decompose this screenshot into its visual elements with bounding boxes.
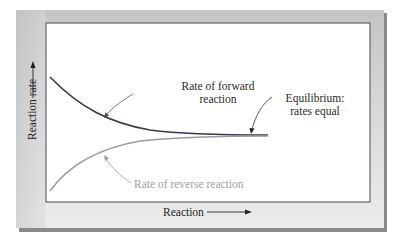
forward-label-line2: reaction [199,93,236,105]
forward-label-line1: Rate of forward [182,80,255,92]
reverse-label: Rate of reverse reaction [134,178,244,190]
y-axis-label: Reaction rate [26,79,38,140]
equilibrium-label-line2: rates equal [290,105,340,118]
x-axis-label: Reaction [163,206,204,218]
reaction-rate-diagram: Rate of forward reaction Equilibrium: ra… [0,0,403,242]
equilibrium-label-line1: Equilibrium: [286,92,345,105]
